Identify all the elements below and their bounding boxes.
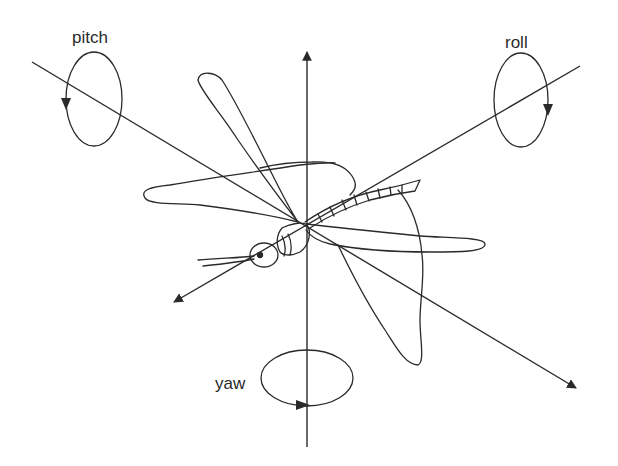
roll-label: roll	[505, 34, 528, 51]
yaw-direction-arrow-icon	[296, 400, 310, 410]
rotation-axes-diagram: pitch roll yaw	[0, 0, 618, 466]
wing-right	[306, 224, 485, 252]
wing-lower-right	[338, 190, 423, 365]
pitch-direction-arrow-icon	[61, 98, 71, 110]
yaw-label: yaw	[215, 375, 245, 392]
pitch-label: pitch	[72, 29, 108, 46]
roll-direction-arrow-icon	[543, 104, 553, 116]
diagram-canvas	[0, 0, 618, 466]
antenna	[198, 256, 254, 260]
wing-upper-left	[198, 73, 298, 222]
abdomen	[305, 180, 420, 228]
